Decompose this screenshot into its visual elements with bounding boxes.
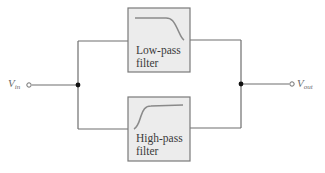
low-pass-filter-label: Low-pass filter [136,44,181,70]
high-pass-label-line1: High-pass [136,132,183,145]
high-pass-label-line2: filter [136,145,183,158]
output-voltage-subscript: out [304,83,313,91]
input-junction-dot [76,83,81,88]
output-terminal [290,82,294,86]
input-voltage-label: Vin [8,77,20,91]
input-voltage-subscript: in [15,83,20,91]
output-junction-dot [239,82,244,87]
low-pass-label-line2: filter [136,57,181,70]
output-voltage-symbol: V [297,77,304,89]
high-pass-filter-label: High-pass filter [136,132,183,158]
input-terminal [27,83,31,87]
low-pass-label-line1: Low-pass [136,44,181,57]
input-voltage-symbol: V [8,77,15,89]
output-voltage-label: Vout [297,77,313,91]
